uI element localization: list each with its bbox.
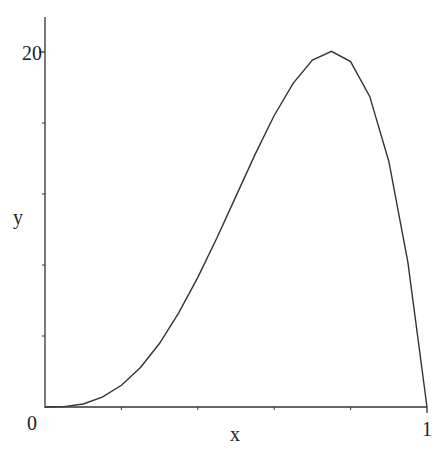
x-axis [45, 407, 427, 413]
chart: 20 0 1 x y [0, 0, 445, 461]
y-axis [39, 17, 45, 408]
x-axis-label: x [230, 423, 240, 445]
data-curve [45, 51, 427, 407]
y-tick-label-0: 0 [27, 412, 37, 434]
x-tick-label-1: 1 [422, 418, 432, 440]
y-tick-label-20: 20 [22, 42, 42, 64]
y-axis-label: y [13, 206, 23, 229]
